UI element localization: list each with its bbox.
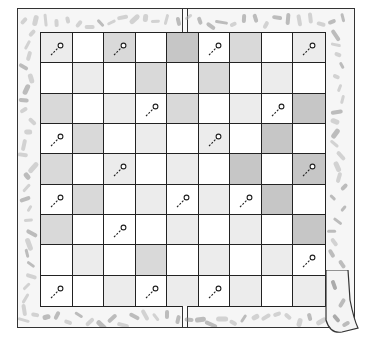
fabric-speckle [28,73,35,84]
fabric-speckle [140,309,149,321]
fabric-speckle [328,18,337,25]
fabric-speckle [152,312,160,321]
sewing-pin-icon [207,41,223,57]
fabric-speckle [43,14,47,27]
grid-cell [230,185,262,215]
grid-cell [293,185,325,215]
fabric-speckle [22,83,31,95]
grid-cell [262,154,294,184]
grid-cell [230,245,262,275]
fabric-speckle [251,313,260,321]
fabric-speckle [331,109,343,114]
grid-cell [230,215,262,245]
fabric-speckle [21,139,27,151]
fabric-speckle [340,205,347,212]
fabric-speckle [143,14,148,22]
sewing-pin-icon [112,162,128,178]
fabric-speckle [106,313,117,324]
fabric-speckle [336,150,346,161]
fabric-speckle [175,16,181,26]
grid-cell [41,215,73,245]
fabric-speckle [296,318,303,328]
sewing-pin-icon [301,162,317,178]
fabric-speckle [229,319,238,327]
grid-cell [293,124,325,154]
sewing-pin-icon [270,102,286,118]
grid-cell [136,124,168,154]
grid-cell [230,63,262,93]
grid-cell [41,154,73,184]
fabric-speckle [31,312,40,318]
sewing-pin-icon [112,41,128,57]
checkerboard-grid [40,32,326,307]
grid-cell [41,124,73,154]
fabric-speckle [19,63,29,71]
fabric-speckle [24,40,31,50]
fabric-speckle [117,14,128,20]
grid-cell [41,63,73,93]
fabric-speckle [204,320,217,328]
grid-cell [41,245,73,275]
grid-cell [167,124,199,154]
fabric-speckle [272,311,281,317]
grid-cell [167,94,199,124]
fabric-speckle [128,14,140,26]
fabric-speckle [242,14,247,23]
fabric-speckle [53,311,61,321]
fabric-speckle [307,13,313,24]
fabric-speckle [20,106,28,113]
fabric-speckle [22,183,31,193]
grid-cell [293,215,325,245]
sewing-pin-icon [207,132,223,148]
fabric-speckle [32,14,39,26]
fabric-speckle [337,84,343,93]
grid-cell [262,215,294,245]
grid-cell [230,276,262,306]
quilt-border [17,8,355,328]
fabric-speckle [26,273,38,281]
grid-cell [167,276,199,306]
fabric-speckle [22,282,31,291]
fabric-speckle [331,118,341,125]
sewing-pin-icon [49,284,65,300]
curled-corner [320,270,360,336]
grid-cell [136,154,168,184]
fabric-speckle [330,128,340,140]
grid-cell [293,33,325,63]
fabric-speckle [26,229,38,238]
fabric-speckle [327,230,336,233]
fabric-speckle [128,312,140,321]
grid-cell [136,215,168,245]
grid-cell [199,154,231,184]
grid-cell [104,63,136,93]
grid-cell [104,276,136,306]
fabric-speckle [165,310,169,320]
grid-cell [104,215,136,245]
fabric-speckle [332,217,342,226]
grid-cell [136,276,168,306]
grid-cell [199,33,231,63]
grid-cell [41,94,73,124]
grid-cell [262,276,294,306]
fabric-speckle [20,17,28,25]
fabric-speckle [272,14,282,20]
fabric-speckle [27,161,39,174]
fabric-speckle [27,117,37,126]
grid-cell [167,33,199,63]
grid-cell [167,154,199,184]
fabric-speckle [262,20,269,29]
fabric-speckle [97,19,105,28]
grid-cell [199,245,231,275]
fabric-speckle [307,312,313,321]
fabric-speckle [74,311,84,319]
grid-cell [199,63,231,93]
fabric-speckle [55,19,59,27]
fabric-speckle [18,98,28,102]
fabric-speckle [261,312,272,320]
fabric-speckle [197,17,203,26]
grid-cell [262,245,294,275]
grid-cell [136,185,168,215]
fabric-speckle [329,194,336,201]
fabric-speckle [117,322,130,328]
fabric-speckle [283,312,292,320]
